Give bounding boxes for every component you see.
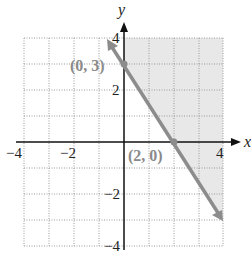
- x-tick-neg2: −2: [60, 146, 76, 161]
- y-tick-neg2: −2: [104, 187, 120, 202]
- y-tick-neg4: −4: [104, 239, 120, 254]
- x-axis-arrow-icon: [231, 138, 241, 146]
- point-2-0: [171, 139, 178, 146]
- y-axis-arrow-icon: [120, 22, 128, 32]
- x-axis-label: x: [244, 134, 251, 150]
- point-0-3: [121, 61, 128, 68]
- point-label-0-3: (0, 3): [70, 58, 105, 74]
- x-tick-neg4: −4: [6, 146, 22, 161]
- y-axis-label: y: [118, 2, 125, 18]
- y-tick-4: 4: [112, 31, 120, 46]
- point-label-2-0: (2, 0): [128, 148, 163, 164]
- y-tick-2: 2: [112, 83, 120, 98]
- x-tick-4: 4: [216, 146, 224, 161]
- plot-canvas: [0, 0, 251, 263]
